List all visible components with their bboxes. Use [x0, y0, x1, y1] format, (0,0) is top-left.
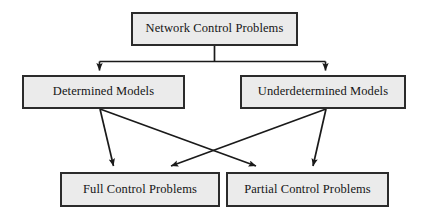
edge-underdetermined-to-partial: [313, 109, 326, 166]
edge-determined-to-partial: [100, 109, 256, 166]
edge-determined-to-full: [100, 109, 114, 166]
edge-underdetermined-to-full: [171, 109, 326, 166]
node-underdetermined-models[interactable]: Underdetermined Models: [240, 75, 406, 109]
flowchart-diagram: Network Control Problems Determined Mode…: [0, 0, 424, 219]
node-label: Full Control Problems: [79, 183, 201, 197]
node-network-control-problems[interactable]: Network Control Problems: [131, 12, 298, 46]
node-determined-models[interactable]: Determined Models: [22, 75, 185, 109]
node-label: Determined Models: [49, 85, 158, 99]
node-full-control-problems[interactable]: Full Control Problems: [60, 172, 220, 207]
node-label: Network Control Problems: [142, 22, 288, 36]
node-label: Partial Control Problems: [240, 183, 375, 197]
node-partial-control-problems[interactable]: Partial Control Problems: [226, 172, 389, 207]
node-label: Underdetermined Models: [254, 85, 392, 99]
